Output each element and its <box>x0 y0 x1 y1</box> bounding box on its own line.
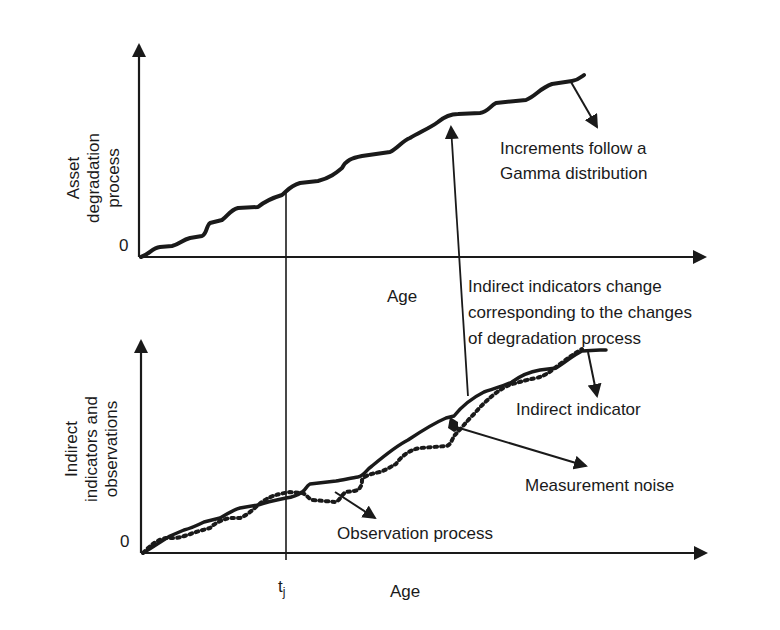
bottom-y-label-line-2: indicators and <box>82 349 102 549</box>
correspondence-line-3: of degradation process <box>468 326 692 352</box>
correspondence-arrow <box>451 127 468 396</box>
tj-tick-subscript: j <box>283 585 286 599</box>
correspondence-annotation: Indirect indicators change corresponding… <box>468 274 692 352</box>
indirect-indicator-label: Indirect indicator <box>516 400 641 420</box>
gamma-annotation-line-2: Gamma distribution <box>500 161 647 186</box>
observation-process-arrow <box>335 492 375 518</box>
measurement-noise-marker <box>448 417 458 432</box>
gamma-annotation-arrow <box>571 82 597 127</box>
gamma-annotation: Increments follow a Gamma distribution <box>500 136 647 186</box>
measurement-noise-label: Measurement noise <box>525 476 674 496</box>
gamma-annotation-line-1: Increments follow a <box>500 136 647 161</box>
correspondence-line-1: Indirect indicators change <box>468 274 692 300</box>
observation-process-label: Observation process <box>337 524 493 544</box>
top-x-axis-label: Age <box>387 287 417 307</box>
bottom-y-label-line-1: Indirect <box>62 349 82 549</box>
bottom-zero-label: 0 <box>120 532 129 552</box>
top-y-label-line-2: degradation <box>84 93 104 263</box>
tj-tick-label: tj <box>278 577 285 602</box>
correspondence-line-2: corresponding to the changes <box>468 300 692 326</box>
top-zero-label: 0 <box>119 236 128 256</box>
bottom-y-label-line-3: observations <box>102 349 122 549</box>
bottom-y-axis-label: Indirect indicators and observations <box>62 349 128 549</box>
bottom-x-axis-label: Age <box>390 582 420 602</box>
measurement-noise-arrow <box>456 427 586 466</box>
top-y-label-line-1: Asset <box>64 93 84 263</box>
indirect-indicator-arrow <box>588 352 597 396</box>
